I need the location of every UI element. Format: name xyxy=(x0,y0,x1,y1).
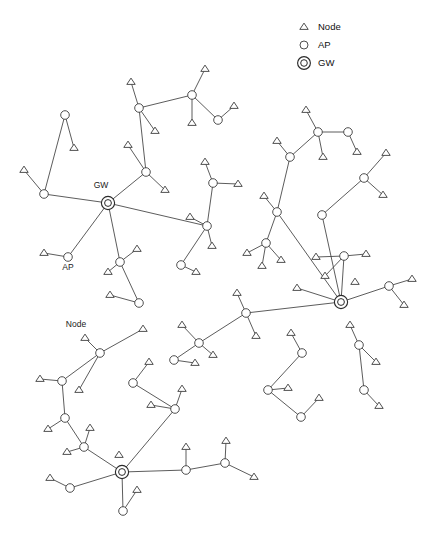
node-marker xyxy=(106,291,114,297)
ap-marker xyxy=(188,91,197,100)
node-marker xyxy=(382,149,390,155)
ap-marker xyxy=(135,299,144,308)
node-marker xyxy=(178,321,186,327)
node-marker xyxy=(346,321,354,327)
node-marker xyxy=(182,443,190,449)
ap-marker xyxy=(355,341,364,350)
gw-marker-inner xyxy=(119,469,126,476)
node-marker xyxy=(408,275,416,281)
ap-marker xyxy=(298,349,307,358)
ap-marker xyxy=(96,349,105,358)
node-marker xyxy=(362,250,370,256)
ap-marker xyxy=(360,174,369,183)
node-marker xyxy=(86,424,94,430)
ap-marker xyxy=(170,356,179,365)
topology-link xyxy=(79,353,100,390)
ap-marker xyxy=(273,208,282,217)
node-marker xyxy=(178,385,186,391)
ap-marker xyxy=(314,128,323,137)
node-marker xyxy=(201,158,209,164)
topology-link xyxy=(108,172,146,203)
node-marker xyxy=(258,262,266,268)
ap-marker xyxy=(344,128,353,137)
ap-marker xyxy=(135,104,144,113)
ap-circle-icon xyxy=(300,41,308,49)
node-marker xyxy=(124,141,132,147)
ap-marker xyxy=(221,459,230,468)
node-marker xyxy=(353,148,361,154)
node-marker xyxy=(319,153,327,159)
topology-link xyxy=(44,194,108,203)
topology-link xyxy=(108,203,120,262)
node-marker xyxy=(192,268,200,274)
ap-marker xyxy=(64,253,73,262)
ap-marker xyxy=(40,190,49,199)
node-marker xyxy=(260,192,268,198)
node-marker xyxy=(36,375,44,381)
topology-link xyxy=(225,463,254,477)
node-marker xyxy=(44,425,52,431)
topology-link xyxy=(70,472,122,488)
ap-marker xyxy=(385,282,394,291)
topology-link xyxy=(364,153,386,178)
ap-marker xyxy=(214,116,223,125)
node-marker xyxy=(40,249,48,255)
gw-marker-inner xyxy=(338,299,345,306)
topology-link xyxy=(139,95,192,108)
node-marker xyxy=(147,401,155,407)
network-topology-figure: GWAPNode NodeAPGW xyxy=(0,0,437,538)
ap-marker xyxy=(297,413,306,422)
node-marker xyxy=(81,334,89,340)
topology-canvas: GWAPNode NodeAPGW xyxy=(0,0,437,538)
node-marker xyxy=(293,284,301,290)
ap-marker xyxy=(80,443,89,452)
ap-marker xyxy=(264,386,273,395)
node-marker xyxy=(400,301,408,307)
node-marker xyxy=(351,278,359,284)
node-marker xyxy=(70,144,78,150)
topology-link xyxy=(65,418,84,447)
ap-marker xyxy=(340,252,349,261)
topology-link xyxy=(100,329,143,353)
ap-marker xyxy=(360,386,369,395)
legend-group: NodeAPGW xyxy=(298,21,341,70)
node-marker xyxy=(222,437,230,443)
topology-link xyxy=(186,463,225,470)
ap-marker xyxy=(119,507,128,516)
node-marker xyxy=(186,213,194,219)
node-marker xyxy=(250,473,258,479)
topology-link xyxy=(207,183,213,226)
node-marker xyxy=(46,474,54,480)
topology-link xyxy=(65,115,74,148)
ap-marker xyxy=(66,484,75,493)
ap-marker xyxy=(58,377,67,386)
ap-marker xyxy=(61,414,70,423)
ap-marker xyxy=(286,153,295,162)
topology-link xyxy=(62,381,65,418)
node-marker xyxy=(230,102,238,108)
node-marker xyxy=(234,180,242,186)
topology-link xyxy=(268,353,302,390)
ap-marker xyxy=(262,239,271,248)
node-callout-label: Node xyxy=(66,319,87,329)
legend-label-gw: GW xyxy=(318,57,334,68)
node-marker xyxy=(273,137,281,143)
topology-link xyxy=(266,212,277,243)
ap-marker xyxy=(203,222,212,231)
gw-callout-label: GW xyxy=(94,180,109,190)
node-marker xyxy=(284,384,292,390)
node-marker xyxy=(115,451,123,457)
topology-link xyxy=(277,157,290,212)
ap-marker xyxy=(318,211,327,220)
node-marker xyxy=(145,358,153,364)
legend-label-node: Node xyxy=(318,21,341,32)
topology-link xyxy=(68,203,108,257)
topology-link xyxy=(246,302,341,313)
topology-link xyxy=(122,409,175,472)
node-marker xyxy=(20,166,28,172)
node-triangle-icon xyxy=(300,23,308,29)
ap-marker xyxy=(195,339,204,348)
node-marker xyxy=(243,249,251,255)
node-marker xyxy=(233,289,241,295)
node-marker xyxy=(208,242,216,248)
